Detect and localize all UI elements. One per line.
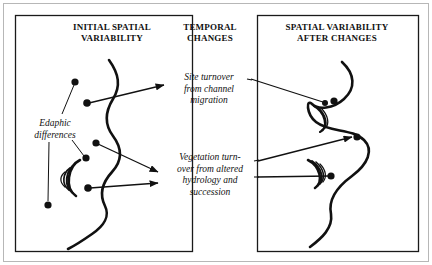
panel-title-after: SPATIAL VARIABILITY AFTER CHANGES: [258, 22, 416, 44]
panel-title-temporal: TEMPORAL CHANGES: [150, 22, 270, 44]
diagram-figure: INITIAL SPATIAL VARIABILITY TEMPORAL CHA…: [0, 0, 432, 265]
sample-point: [71, 78, 78, 85]
sample-point: [353, 133, 360, 140]
sample-point: [330, 97, 337, 104]
annotation-edaphic-differences: Edaphic differences: [24, 118, 86, 141]
sample-point: [327, 172, 334, 179]
panel-right-box: [258, 16, 419, 252]
sample-point: [92, 139, 99, 146]
sample-point: [322, 100, 328, 106]
annotation-vegetation-turnover: Vegetation turn- over from altered hydro…: [162, 152, 258, 198]
annotation-site-turnover: Site turnover from channel migration: [168, 72, 250, 107]
sample-point: [44, 201, 51, 208]
